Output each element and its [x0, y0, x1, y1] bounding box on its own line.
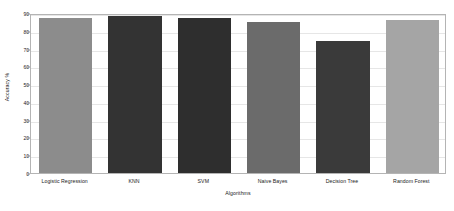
gridline — [31, 86, 445, 87]
x-axis-tick-label: Logistic Regression — [30, 178, 99, 184]
plot-frame — [30, 14, 446, 174]
y-axis-tick-label: 0 — [3, 171, 29, 177]
bar — [39, 18, 92, 173]
x-axis-tick-label: Naive Bayes — [238, 178, 307, 184]
y-axis-tick-label: 90 — [3, 11, 29, 17]
bar — [316, 41, 369, 173]
bar — [178, 18, 231, 173]
bar — [247, 22, 300, 173]
plot-area — [31, 15, 445, 173]
gridline — [31, 68, 445, 69]
gridline — [31, 51, 445, 52]
gridline — [31, 33, 445, 34]
gridline — [31, 139, 445, 140]
x-axis-tick-label: KNN — [99, 178, 168, 184]
y-axis-tick-label: 80 — [3, 29, 29, 35]
bar-chart-figure: Accuracy % 0102030405060708090 Logistic … — [0, 0, 454, 211]
y-axis-tick-label: 30 — [3, 118, 29, 124]
y-axis-tick-label: 40 — [3, 100, 29, 106]
bar — [108, 16, 161, 173]
x-axis-tick-label: Random Forest — [377, 178, 446, 184]
y-axis-tick-label: 50 — [3, 82, 29, 88]
gridline — [31, 15, 445, 16]
gridline — [31, 122, 445, 123]
y-axis-tick-label: 20 — [3, 135, 29, 141]
gridline — [31, 157, 445, 158]
x-axis-label: Algorithms — [30, 190, 446, 196]
x-axis-tick-label: SVM — [169, 178, 238, 184]
y-axis-tick-label: 10 — [3, 153, 29, 159]
y-axis-tick-label: 70 — [3, 47, 29, 53]
bar — [386, 20, 439, 173]
gridline — [31, 104, 445, 105]
y-axis-tick-label: 60 — [3, 64, 29, 70]
x-axis-tick-label: Decision Tree — [307, 178, 376, 184]
